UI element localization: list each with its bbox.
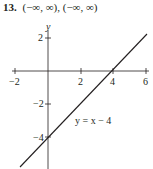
equation-label: y = x − 4 (75, 115, 111, 126)
y-tick-label: −4 (33, 132, 44, 143)
x-tick-label: 4 (110, 76, 115, 87)
y-axis-label: y (45, 21, 51, 32)
y-tick-label: −2 (33, 98, 44, 109)
x-tick-label: 6 (143, 76, 148, 87)
x-tick-label: −2 (9, 76, 20, 87)
graph: −2 2 4 6 2 −2 −4 y y = x − 4 (0, 0, 153, 169)
y-tick-label: 2 (38, 32, 43, 43)
x-tick-label: 2 (78, 76, 83, 87)
